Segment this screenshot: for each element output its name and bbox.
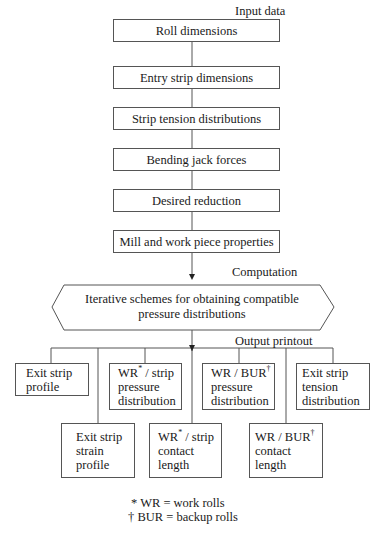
text-line: WR* / strip: [118, 366, 181, 380]
output-box-exit-strip-strain: Exit strip strain profile: [61, 423, 135, 478]
text-fragment: WR / BUR: [211, 366, 267, 380]
text-line: WR / BUR†: [211, 366, 274, 380]
section-label-computation: Computation: [232, 265, 297, 280]
input-box-bending-jack: Bending jack forces: [113, 148, 280, 171]
text-fragment: WR: [158, 430, 178, 444]
text-line: WR / BUR†: [255, 430, 322, 444]
text-line: contact: [158, 444, 221, 458]
text-line: Exit strip: [302, 366, 369, 380]
text-line: length: [158, 458, 221, 472]
output-box-wr-bur-contact: WR / BUR† contact length: [249, 423, 323, 478]
section-label-output: Output printout: [235, 334, 312, 349]
text-line: contact: [255, 444, 322, 458]
input-box-mill-properties: Mill and work piece properties: [113, 230, 280, 253]
text-fragment: / strip: [142, 366, 174, 380]
text-line: profile: [26, 380, 88, 394]
arrowhead-icon: [189, 274, 195, 280]
text-fragment: WR / BUR: [255, 430, 311, 444]
footnote-mark: †: [311, 428, 315, 437]
computation-text: Iterative schemes for obtaining compatib…: [60, 292, 324, 322]
text-line: tension: [302, 380, 369, 394]
input-box-desired-reduction: Desired reduction: [113, 189, 280, 212]
footnote-wr: * WR = work rolls: [131, 496, 225, 510]
text-line: pressure: [118, 380, 181, 394]
footnote-mark: *: [178, 428, 182, 437]
computation-line-1: Iterative schemes for obtaining compatib…: [60, 292, 324, 307]
output-box-exit-strip-profile: Exit strip profile: [15, 363, 89, 396]
text-fragment: / strip: [182, 430, 214, 444]
section-label-input: Input data: [235, 4, 285, 19]
text-line: distribution: [211, 394, 274, 408]
input-box-roll-dimensions: Roll dimensions: [113, 19, 280, 42]
computation-line-2: pressure distributions: [60, 307, 324, 322]
output-box-wr-strip-contact: WR* / strip contact length: [149, 423, 222, 478]
footnote-mark: *: [138, 364, 142, 373]
output-box-wr-bur-pressure: WR / BUR† pressure distribution: [202, 363, 275, 410]
text-line: length: [255, 458, 322, 472]
text-line: distribution: [118, 394, 181, 408]
text-line: Exit strip: [26, 366, 88, 380]
input-box-strip-tension: Strip tension distributions: [113, 107, 280, 130]
text-fragment: WR: [118, 366, 138, 380]
footnote-mark: †: [267, 364, 271, 373]
footnote-bur: † BUR = backup rolls: [128, 510, 238, 524]
text-line: WR* / strip: [158, 430, 221, 444]
input-box-entry-strip-dimensions: Entry strip dimensions: [113, 66, 280, 89]
text-line: pressure: [211, 380, 274, 394]
text-line: Exit strip: [76, 430, 134, 444]
output-box-wr-strip-pressure: WR* / strip pressure distribution: [109, 363, 182, 410]
text-line: strain: [76, 444, 134, 458]
text-line: profile: [76, 458, 134, 472]
text-line: distribution: [302, 394, 369, 408]
output-box-exit-strip-tension: Exit strip tension distribution: [296, 363, 370, 410]
